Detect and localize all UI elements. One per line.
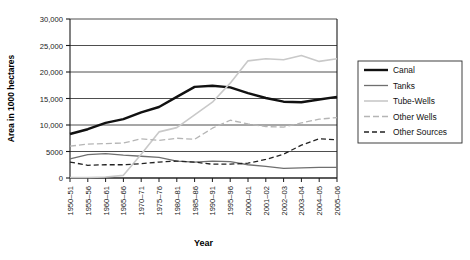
x-tick-label-13: 2003–04 [297,186,306,216]
y-tick-label-2: 10,000 [40,121,63,130]
legend-label-tube-wells[interactable]: Tube-Wells [393,96,435,106]
x-tick-label-6: 1980–81 [173,186,182,216]
line-chart: 0500010,00015,00020,00025,00030,000Area … [0,0,470,260]
x-tick-label-14: 2004–05 [315,186,324,216]
y-tick-label-4: 20,000 [40,68,63,77]
x-tick-label-11: 2001–02 [262,186,271,216]
y-axis-title: Area in 1000 hectares [6,55,16,143]
series-line-tanks [70,154,337,169]
y-axis-title-text: Area in 1000 hectares [6,55,16,143]
x-tick-label-8: 1990–91 [208,186,217,216]
x-tick-label-4: 1970–71 [137,186,146,216]
data-series [70,56,337,178]
x-tick-label-3: 1965–66 [119,186,128,216]
y-tick-label-3: 15,000 [40,95,63,104]
x-tick-label-7: 1985–86 [191,186,200,216]
legend-label-other-wells[interactable]: Other Wells [393,112,437,122]
x-tick-label-10: 2000–01 [244,186,253,216]
x-tick-label-5: 1975–76 [155,186,164,216]
legend-label-canal[interactable]: Canal [393,65,415,75]
x-axis-title: Year [194,238,214,248]
legend: CanalTanksTube-WellsOther WellsOther Sou… [358,61,462,143]
x-tick-label-12: 2002–03 [280,186,289,216]
legend-label-tanks[interactable]: Tanks [393,81,415,91]
y-tick-label-1: 5000 [46,148,63,157]
series-line-tube-wells [70,56,337,178]
x-tick-label-2: 1960–61 [102,186,111,216]
legend-label-other-sources[interactable]: Other Sources [393,127,447,137]
chart-canvas: 0500010,00015,00020,00025,00030,000Area … [0,0,470,260]
x-axis-ticks: 1950–511955–561960–611965–661970–711975–… [66,178,342,216]
x-axis-title-text: Year [194,238,214,248]
x-tick-label-0: 1950–51 [66,186,75,216]
series-line-canal [70,86,337,134]
y-tick-label-0: 0 [59,174,63,183]
y-axis-ticks: 0500010,00015,00020,00025,00030,000 [40,15,70,183]
x-tick-label-1: 1955–56 [84,186,93,216]
y-tick-label-6: 30,000 [40,15,63,24]
x-tick-label-15: 2005–06 [333,186,342,216]
y-tick-label-5: 25,000 [40,42,63,51]
x-tick-label-9: 1995–96 [226,186,235,216]
